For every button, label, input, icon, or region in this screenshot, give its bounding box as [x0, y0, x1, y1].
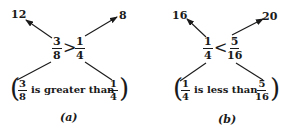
close-paren: )	[119, 75, 129, 101]
cross-multiplication-lines	[0, 0, 286, 137]
line-a-right	[85, 62, 112, 80]
product-16: 16	[172, 10, 187, 21]
statement-text: is less than	[194, 85, 257, 95]
panel-label-a: (a)	[60, 111, 78, 124]
close-paren: )	[270, 75, 280, 101]
statement-fraction-right: 1 4	[109, 79, 118, 102]
fraction-1-4: 1 4	[75, 36, 85, 61]
statement-fraction-left: 3 8	[18, 79, 27, 102]
fraction-1-4: 1 4	[203, 36, 213, 61]
arrow-to-12	[26, 20, 52, 38]
product-8: 8	[119, 10, 127, 21]
product-12: 12	[11, 9, 26, 20]
statement-fraction-left: 1 4	[181, 79, 190, 102]
fraction-3-8: 3 8	[52, 36, 62, 61]
arrow-to-20	[232, 19, 263, 35]
statement-fraction-right: 5 16	[255, 79, 269, 102]
product-20: 20	[262, 11, 277, 22]
statement-text: is greater than	[31, 85, 114, 95]
fraction-5-16: 1 5 16	[227, 36, 242, 61]
arrow-to-8	[85, 17, 117, 36]
panel-label-b: (b)	[218, 113, 236, 126]
less-than-sign: <	[214, 40, 227, 56]
